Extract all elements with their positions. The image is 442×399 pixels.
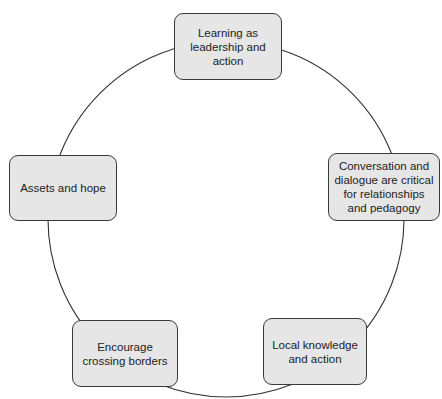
node-encourage-crossing-borders: Encourage crossing borders	[72, 320, 178, 387]
node-label: Assets and hope	[20, 181, 106, 195]
node-label: Encourage crossing borders	[77, 340, 173, 368]
node-label: Local knowledge and action	[268, 338, 362, 366]
node-label: Learning as leadership and action	[179, 26, 277, 68]
node-local-knowledge: Local knowledge and action	[263, 318, 367, 385]
node-assets-and-hope: Assets and hope	[9, 155, 117, 221]
node-conversation-and-dialogue: Conversation and dialogue are critical f…	[328, 153, 440, 221]
node-learning-as-leadership: Learning as leadership and action	[174, 13, 282, 80]
node-label: Conversation and dialogue are critical f…	[333, 159, 435, 215]
